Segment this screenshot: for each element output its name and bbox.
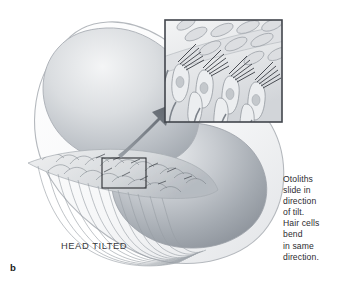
caption-line: Otoliths xyxy=(283,174,338,185)
figure-panel-b: Otoliths slide in direction of tilt. Hai… xyxy=(0,0,338,291)
caption-line: of tilt. xyxy=(283,207,338,218)
head-tilted-label: HEAD TILTED xyxy=(61,240,127,251)
caption-line: direction. xyxy=(283,252,338,263)
caption-text-block: Otoliths slide in direction of tilt. Hai… xyxy=(283,174,338,263)
caption-line: bend xyxy=(283,229,338,240)
panel-letter-label: b xyxy=(10,262,16,273)
caption-line: in same xyxy=(283,241,338,252)
caption-line: slide in xyxy=(283,185,338,196)
caption-line: Hair cells xyxy=(283,218,338,229)
caption-line: direction xyxy=(283,196,338,207)
